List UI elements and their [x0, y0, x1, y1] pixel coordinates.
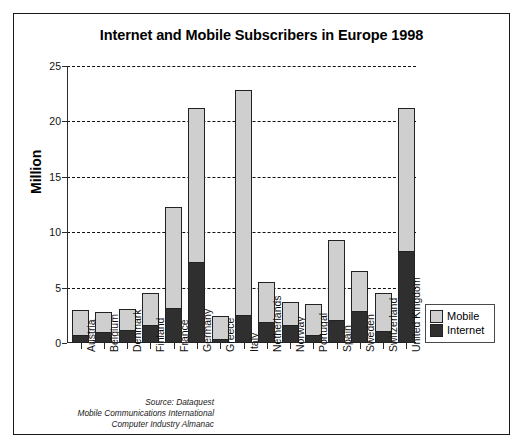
bar-group[interactable]: Portugal: [305, 53, 322, 343]
legend-label: Mobile: [447, 311, 479, 322]
chart-legend: MobileInternet: [425, 304, 495, 343]
legend-swatch: [430, 310, 443, 323]
legend-label: Internet: [447, 325, 484, 336]
x-tick-mark: [406, 343, 407, 349]
bar-group[interactable]: Italy: [235, 53, 252, 343]
x-tick-mark: [290, 343, 291, 349]
bar-series-container: AustriaBelgiumDenmarkFinlandFranceGerman…: [67, 53, 416, 343]
x-tick-mark: [150, 343, 151, 349]
bar-group[interactable]: United Kingdom: [398, 53, 415, 343]
x-tick-mark: [313, 343, 314, 349]
y-tick-label: 10: [49, 226, 61, 238]
chart-title: Internet and Mobile Subscribers in Europ…: [14, 27, 509, 43]
x-tick-mark: [220, 343, 221, 349]
bar-group[interactable]: Norway: [282, 53, 299, 343]
y-tick-label: 15: [49, 171, 61, 183]
x-tick-mark: [360, 343, 361, 349]
bar-group[interactable]: Denmark: [119, 53, 136, 343]
legend-swatch: [430, 324, 443, 337]
bar-group[interactable]: Belgium: [95, 53, 112, 343]
x-tick-mark: [383, 343, 384, 349]
bar-group[interactable]: Spain: [328, 53, 345, 343]
chart-figure: Internet and Mobile Subscribers in Europ…: [13, 13, 510, 435]
bar-group[interactable]: Netherlands: [258, 53, 275, 343]
source-line: Computer Industry Almanac: [24, 419, 214, 430]
plot-area: 0510152025 AustriaBelgiumDenmarkFinlandF…: [67, 53, 416, 343]
x-tick-mark: [197, 343, 198, 349]
x-tick-mark: [174, 343, 175, 349]
x-tick-mark: [337, 343, 338, 349]
bar-group[interactable]: Germany: [188, 53, 205, 343]
x-tick-mark: [104, 343, 105, 349]
bar-group[interactable]: Switzerland: [375, 53, 392, 343]
bar-group[interactable]: Sweden: [351, 53, 368, 343]
bar-group[interactable]: France: [165, 53, 182, 343]
source-line: Source: Dataquest: [24, 397, 214, 408]
bar-group[interactable]: Austria: [72, 53, 89, 343]
y-tick-label: 5: [55, 282, 61, 294]
y-axis-title: Million: [28, 150, 44, 194]
y-tick-mark: [62, 343, 67, 344]
source-note: Source: DataquestMobile Communications I…: [24, 397, 214, 431]
x-tick-mark: [81, 343, 82, 349]
x-axis-label: United Kingdom: [410, 277, 422, 352]
x-tick-mark: [267, 343, 268, 349]
y-tick-label: 0: [55, 337, 61, 349]
bar-segment-mobile[interactable]: [235, 90, 252, 343]
source-line: Mobile Communications International: [24, 408, 214, 419]
legend-item[interactable]: Internet: [430, 324, 489, 337]
x-tick-mark: [127, 343, 128, 349]
legend-item[interactable]: Mobile: [430, 310, 489, 323]
y-tick-label: 25: [49, 60, 61, 72]
y-tick-label: 20: [49, 115, 61, 127]
bar-group[interactable]: Finland: [142, 53, 159, 343]
x-tick-mark: [244, 343, 245, 349]
bar-group[interactable]: Greece: [212, 53, 229, 343]
